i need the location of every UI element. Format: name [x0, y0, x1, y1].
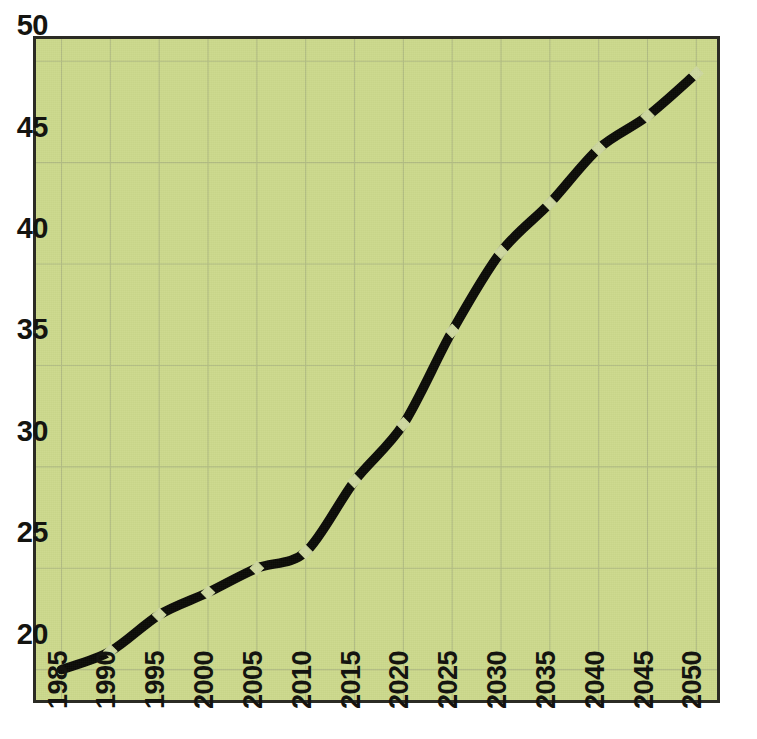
x-axis-tick-label: 2045	[631, 651, 658, 709]
x-axis-tick-label: 2030	[484, 651, 511, 709]
x-axis-tick-label: 2010	[289, 651, 316, 709]
x-axis-tick-labels: 1985199019952000200520102015202020252030…	[33, 604, 720, 709]
vertical-gridlines	[62, 39, 697, 700]
x-axis-tick-label: 2035	[533, 651, 560, 709]
x-axis-tick-label: 1990	[93, 651, 120, 709]
y-axis-tick-label: 50	[0, 11, 48, 40]
x-axis-tick-label: 2020	[386, 651, 413, 709]
chart-canvas: 20253035404550 1985199019952000200520102…	[0, 0, 757, 739]
x-axis-tick-label: 1985	[45, 651, 72, 709]
x-axis-tick-label: 2025	[435, 651, 462, 709]
y-axis-tick-label: 25	[0, 518, 48, 547]
y-axis-tick-label: 35	[0, 315, 48, 344]
x-axis-tick-label: 2005	[240, 651, 267, 709]
x-axis-tick-label: 1995	[142, 651, 169, 709]
y-axis-tick-label: 30	[0, 416, 48, 445]
line-chart-svg	[36, 39, 717, 700]
chart-plot-frame	[33, 36, 720, 703]
horizontal-gridlines	[36, 61, 717, 669]
x-axis-tick-label: 2050	[679, 651, 706, 709]
y-axis-tick-labels: 20253035404550	[0, 0, 48, 667]
y-axis-tick-label: 40	[0, 214, 48, 243]
y-axis-tick-label: 45	[0, 112, 48, 141]
x-axis-tick-label: 2015	[338, 651, 365, 709]
x-axis-tick-label: 2000	[191, 651, 218, 709]
x-axis-tick-label: 2040	[582, 651, 609, 709]
